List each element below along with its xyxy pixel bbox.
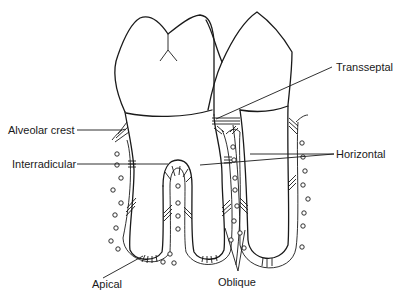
molar-tooth bbox=[112, 15, 232, 264]
molar-fissure bbox=[160, 34, 177, 61]
label-apical: Apical bbox=[92, 278, 122, 290]
fiber-hatching bbox=[115, 118, 298, 267]
molar-cej bbox=[126, 110, 212, 116]
molar-crown bbox=[115, 15, 214, 115]
label-oblique: Oblique bbox=[218, 276, 256, 288]
apical-fibers-premolar bbox=[262, 258, 272, 267]
premolar-cej bbox=[240, 106, 288, 111]
premolar-root bbox=[240, 106, 289, 258]
molar-furcation bbox=[163, 115, 225, 259]
premolar-crown-left bbox=[208, 62, 222, 110]
bone-marrow-spaces bbox=[109, 141, 310, 265]
premolar-crest-fibers bbox=[289, 118, 298, 134]
leader-apical bbox=[103, 256, 143, 278]
label-interradicular: Interradicular bbox=[12, 158, 77, 170]
periodontal-ligament-diagram: Alveolar crest Interradicular Apical Tra… bbox=[0, 0, 402, 302]
oblique-fibers-premolar-right bbox=[288, 175, 296, 191]
label-horizontal: Horizontal bbox=[336, 148, 386, 160]
premolar-tooth bbox=[206, 12, 298, 268]
label-transseptal: Transseptal bbox=[336, 61, 393, 73]
label-alveolar-crest: Alveolar crest bbox=[8, 124, 75, 136]
leader-transseptal bbox=[216, 67, 332, 119]
leader-lines bbox=[77, 67, 334, 278]
molar-root-outer-left bbox=[125, 112, 163, 259]
bone-right-contour bbox=[296, 115, 308, 122]
